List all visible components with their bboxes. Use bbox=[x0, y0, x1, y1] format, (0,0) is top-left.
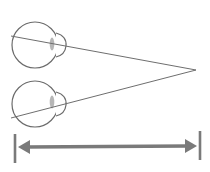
bottom-eye-icon bbox=[12, 81, 66, 127]
distance-arrow bbox=[15, 131, 200, 163]
top-sight-line bbox=[11, 36, 196, 70]
left-arrowhead-icon bbox=[18, 140, 30, 154]
eye-convergence-diagram bbox=[0, 0, 210, 172]
right-arrowhead-icon bbox=[185, 139, 197, 153]
bottom-sight-line bbox=[11, 70, 196, 118]
arrow-shaft bbox=[26, 146, 188, 147]
